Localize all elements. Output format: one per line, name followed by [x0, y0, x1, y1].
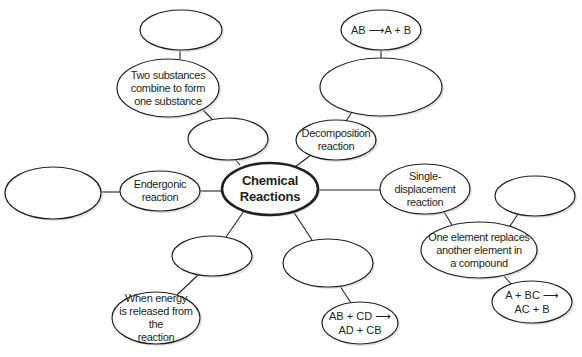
connector-exergonic-blank-to-exergonic-def [177, 275, 198, 295]
node-single-displacement-formula [492, 281, 572, 323]
connector-single-displacement-def-to-single-displacement-extra-blank [510, 214, 518, 226]
node-exergonic-def [112, 292, 200, 344]
node-single-displacement [380, 164, 470, 214]
node-ellipses [5, 10, 575, 344]
node-double-displacement-blank[interactable] [283, 239, 373, 287]
connector-single-displacement-to-single-displacement-def [444, 212, 452, 225]
node-endergonic [120, 171, 200, 211]
node-synthesis-formula-blank[interactable] [140, 10, 222, 50]
connector-center-to-double-displacement-blank [293, 211, 312, 240]
node-synthesis-blank[interactable] [188, 118, 268, 160]
node-center [222, 163, 318, 215]
node-decomposition-def-blank[interactable] [320, 58, 442, 116]
node-decomposition-formula [341, 10, 421, 50]
connector-double-displacement-blank-to-double-displacement-formula [340, 286, 351, 303]
node-single-displacement-def [421, 222, 537, 278]
node-exergonic-blank[interactable] [172, 236, 252, 276]
node-double-displacement-formula [322, 302, 398, 344]
node-decomposition [296, 120, 376, 160]
node-synthesis-def [117, 59, 219, 117]
connector-center-to-exergonic-blank [226, 211, 244, 237]
node-endergonic-def-blank[interactable] [5, 167, 101, 219]
concept-map-canvas [0, 0, 582, 357]
concept-map: Chemical ReactionsTwo substances combine… [0, 0, 582, 357]
node-single-displacement-extra-blank[interactable] [495, 176, 575, 216]
connector-center-to-decomposition [295, 155, 311, 167]
